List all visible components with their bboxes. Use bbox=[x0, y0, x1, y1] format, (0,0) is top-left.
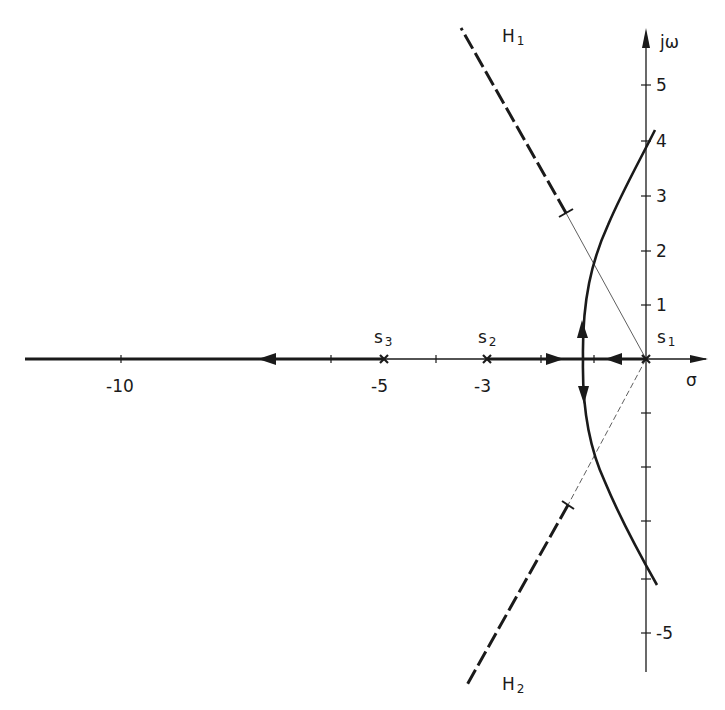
upper-complex-branch bbox=[583, 130, 655, 359]
imag-axis-arrow-icon bbox=[642, 28, 650, 48]
real-axis-label: σ bbox=[686, 370, 697, 390]
asymptote-label-h1: H1 bbox=[502, 26, 524, 48]
imag-tick-label: 5 bbox=[656, 75, 667, 95]
imag-tick-label: 1 bbox=[656, 295, 667, 315]
pole-label-s1: s1 bbox=[657, 327, 676, 349]
arrow-left-icon bbox=[258, 353, 276, 365]
imag-axis bbox=[642, 28, 650, 672]
direction-arrows bbox=[258, 320, 622, 404]
imag-axis-label: jω bbox=[659, 32, 679, 52]
real-tick-label: -3 bbox=[474, 376, 491, 396]
real-tick-label: -10 bbox=[106, 376, 134, 396]
imag-tick-label: 2 bbox=[656, 241, 667, 261]
pole-label-s2: s2 bbox=[478, 327, 497, 349]
asymptote-h1 bbox=[461, 28, 646, 359]
arrow-up-icon bbox=[577, 320, 588, 338]
imag-tick-label: 3 bbox=[656, 186, 667, 206]
asymptote-label-h2: H2 bbox=[502, 674, 524, 696]
arrow-right-icon bbox=[546, 353, 564, 365]
pole-label-s3: s3 bbox=[374, 327, 393, 349]
arrow-left-icon bbox=[605, 353, 622, 365]
root-locus-diagram: jω σ -10 -5 -3 5 4 3 2 1 -5 s3 s2 s1 H1 … bbox=[0, 0, 725, 710]
asymptote-h2 bbox=[467, 359, 646, 685]
real-tick-label: -5 bbox=[371, 376, 388, 396]
real-axis-arrow-icon bbox=[690, 355, 708, 363]
imag-tick-label: 4 bbox=[656, 131, 667, 151]
arrow-down-icon bbox=[578, 386, 589, 404]
imag-tick-label: -5 bbox=[656, 623, 673, 643]
